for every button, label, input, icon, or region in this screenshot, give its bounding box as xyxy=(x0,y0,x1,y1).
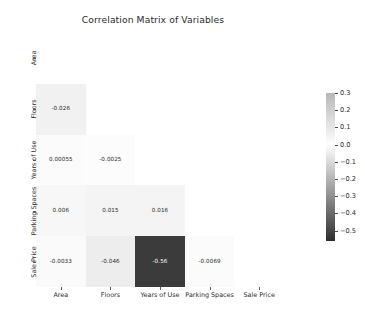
colorbar-tick-label: 0.0 xyxy=(340,141,351,149)
heatmap-cell-value: 0.016 xyxy=(152,208,169,214)
y-axis-label: Area xyxy=(14,52,54,64)
heatmap-cell-masked xyxy=(185,84,235,135)
heatmap-cell-value: -0.56 xyxy=(153,259,168,265)
heatmap-cell: -0.56 xyxy=(135,236,185,287)
colorbar-tick-label: 0.3 xyxy=(340,89,351,97)
heatmap-plot-area: -0.0260.00055-0.00250.0060.0150.016-0.00… xyxy=(36,33,284,287)
heatmap-cell-value: -0.046 xyxy=(101,259,120,265)
y-axis-label-text: Area xyxy=(30,51,38,66)
heatmap-cell-masked xyxy=(234,236,284,287)
colorbar-tick-label: −0.1 xyxy=(340,158,356,166)
colorbar-tick-label: −0.5 xyxy=(340,227,356,235)
heatmap-cell-value: 0.006 xyxy=(53,208,70,214)
colorbar-tick xyxy=(335,179,338,180)
heatmap-cell-masked xyxy=(185,185,235,236)
colorbar-tick xyxy=(335,231,338,232)
heatmap-cell-masked xyxy=(234,185,284,236)
y-axis-label-text: Years of Use xyxy=(30,140,38,179)
heatmap-cell-value: -0.026 xyxy=(51,106,70,112)
colorbar-tick xyxy=(335,162,338,163)
heatmap-cell-masked xyxy=(234,33,284,84)
y-axis-label-text: Parking Spaces xyxy=(30,187,38,236)
colorbar-tick xyxy=(335,196,338,197)
heatmap-cell-value: -0.0025 xyxy=(99,157,121,163)
colorbar-tick-label: −0.2 xyxy=(340,175,356,183)
heatmap-cell-value: -0.0069 xyxy=(198,259,220,265)
colorbar-gradient xyxy=(326,93,335,241)
chart-title: Correlation Matrix of Variables xyxy=(8,14,298,25)
heatmap-cell: 0.015 xyxy=(86,185,136,236)
figure-canvas: Correlation Matrix of Variables -0.0260.… xyxy=(8,5,357,313)
y-axis-label: Floors xyxy=(14,103,54,115)
y-axis-label: Years of Use xyxy=(14,154,54,166)
colorbar-tick-label: 0.2 xyxy=(340,106,351,114)
heatmap-cell-masked xyxy=(185,33,235,84)
y-axis-label-text: Floors xyxy=(30,100,38,119)
x-axis-tick xyxy=(259,287,260,290)
heatmap-cell-masked xyxy=(185,135,235,186)
x-axis-tick xyxy=(61,287,62,290)
colorbar-tick-label: 0.1 xyxy=(340,123,351,131)
colorbar-tick xyxy=(335,145,338,146)
screenshot-root: Correlation Matrix of Variables -0.0260.… xyxy=(0,0,365,319)
x-axis-tick xyxy=(210,287,211,290)
colorbar-tick xyxy=(335,110,338,111)
heatmap-cell: -0.046 xyxy=(86,236,136,287)
heatmap-cell-value: 0.015 xyxy=(102,208,119,214)
y-axis-label: Sale Price xyxy=(14,256,54,268)
y-axis-label: Parking Spaces xyxy=(14,205,54,217)
heatmap-cell-masked xyxy=(135,135,185,186)
y-axis-label-text: Sale Price xyxy=(30,246,38,277)
x-axis-tick xyxy=(110,287,111,290)
colorbar-tick xyxy=(335,93,338,94)
colorbar-tick xyxy=(335,213,338,214)
heatmap-cell-masked xyxy=(234,84,284,135)
heatmap-cell: 0.016 xyxy=(135,185,185,236)
colorbar-tick xyxy=(335,127,338,128)
colorbar-tick-label: −0.3 xyxy=(340,192,356,200)
x-axis-tick xyxy=(160,287,161,290)
colorbar: 0.30.20.10.0−0.1−0.2−0.3−0.4−0.5 xyxy=(326,93,335,241)
heatmap-cell: -0.0069 xyxy=(185,236,235,287)
x-axis-label: Sale Price xyxy=(219,291,299,303)
heatmap-cell-masked xyxy=(234,135,284,186)
colorbar-tick-label: −0.4 xyxy=(340,209,356,217)
heatmap-cell-masked xyxy=(86,33,136,84)
heatmap-cell-masked xyxy=(86,84,136,135)
heatmap-cell-masked xyxy=(135,33,185,84)
heatmap-cell-grid: -0.0260.00055-0.00250.0060.0150.016-0.00… xyxy=(36,33,284,287)
heatmap-cell: -0.0025 xyxy=(86,135,136,186)
heatmap-cell-masked xyxy=(135,84,185,135)
